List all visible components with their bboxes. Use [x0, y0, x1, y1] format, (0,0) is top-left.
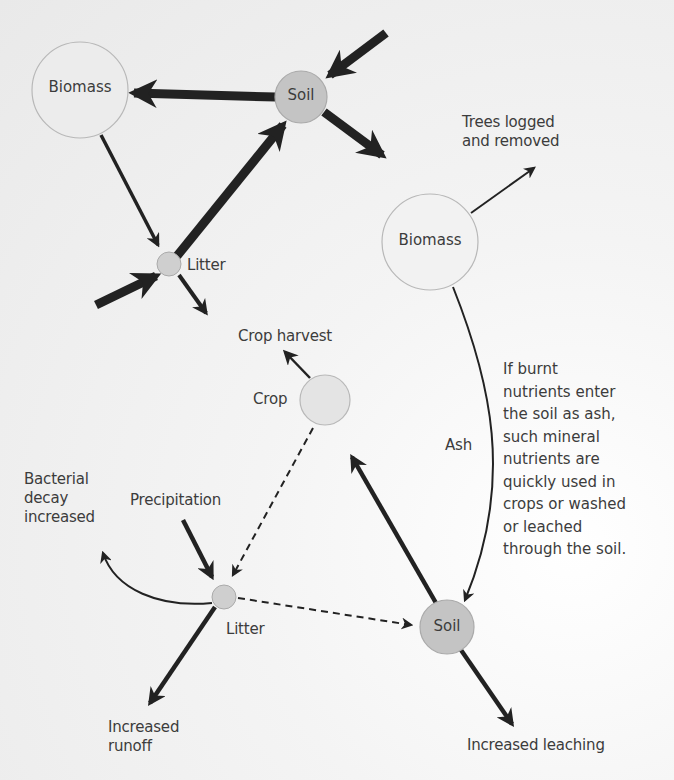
before-soil-label: Soil [278, 86, 324, 104]
after-crop-label: Crop [253, 390, 287, 409]
arrow-biomass-to-litter [101, 135, 158, 245]
note-line: nutrients are [503, 448, 626, 471]
arrow-input-to-litter [96, 276, 156, 305]
before-litter-label: Litter [187, 256, 225, 275]
note-line: such mineral [503, 426, 626, 449]
bacterial-decay-label: Bacterial decay increased [24, 470, 95, 527]
after-litter-label: Litter [226, 620, 264, 639]
note-line: the soil as ash, [503, 403, 626, 426]
bacterial-decay-line: increased [24, 508, 95, 527]
arrow-crop-to-litter [233, 428, 313, 575]
arrow-precipitation [183, 520, 212, 577]
note-line: nutrients enter [503, 381, 626, 404]
arrow-litter-output [179, 275, 206, 313]
increased-runoff-line: runoff [108, 737, 179, 756]
nutrient-cycle-diagram: Biomass Soil Litter Trees logged and rem… [0, 0, 674, 780]
increased-runoff-label: Increased runoff [108, 718, 179, 756]
after-soil-label: Soil [424, 617, 470, 635]
arrow-litter-to-soil [177, 125, 283, 256]
arrow-soil-to-biomass [134, 93, 276, 97]
arrow-soil-output [324, 112, 382, 155]
increased-leaching-label: Increased leaching [467, 736, 605, 755]
note-line: quickly used in [503, 471, 626, 494]
arrow-biomass-to-logged [471, 168, 534, 213]
before-litter-node [157, 252, 181, 276]
note-line: through the soil. [503, 538, 626, 561]
arrow-increased-runoff [150, 607, 215, 703]
after-litter-node [212, 585, 236, 609]
precipitation-label: Precipitation [130, 491, 221, 510]
trees-logged-line-2: and removed [462, 132, 559, 151]
note-line: crops or washed [503, 493, 626, 516]
arrow-input-to-soil [330, 33, 386, 75]
after-biomass-label: Biomass [382, 231, 478, 249]
note-line: or leached [503, 516, 626, 539]
before-biomass-label: Biomass [32, 78, 128, 96]
arrow-soil-to-crop [352, 457, 436, 603]
after-crop-node [300, 375, 350, 425]
arrow-bacterial-decay [103, 553, 212, 604]
crop-harvest-label: Crop harvest [238, 327, 332, 346]
ash-explanation-note: If burnt nutrients enter the soil as ash… [503, 358, 626, 561]
trees-logged-line-1: Trees logged [462, 113, 559, 132]
bacterial-decay-line: Bacterial [24, 470, 95, 489]
arrow-increased-leaching [461, 650, 512, 724]
arrow-crop-harvest [285, 352, 310, 378]
note-line: If burnt [503, 358, 626, 381]
ash-label: Ash [445, 436, 472, 455]
bacterial-decay-line: decay [24, 489, 95, 508]
increased-runoff-line: Increased [108, 718, 179, 737]
trees-logged-label: Trees logged and removed [462, 113, 559, 151]
